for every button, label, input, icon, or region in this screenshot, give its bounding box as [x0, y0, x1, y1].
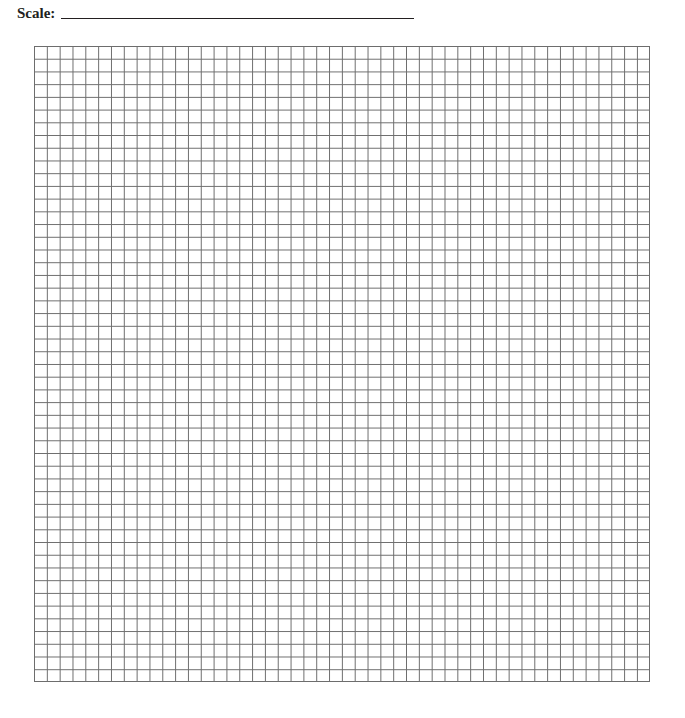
graph-paper-grid: [34, 46, 650, 682]
scale-label: Scale:: [17, 4, 55, 22]
scale-row: Scale:: [17, 4, 414, 22]
scale-blank-line[interactable]: [61, 18, 414, 19]
